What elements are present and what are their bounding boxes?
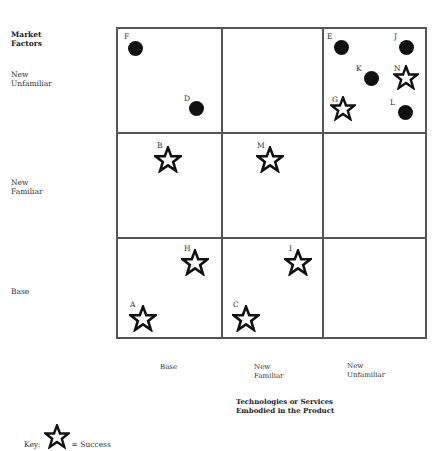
failure-dot-icon: [398, 105, 413, 120]
grid-line: [221, 27, 223, 338]
grid-line: [116, 337, 427, 339]
marker-label-k: K: [356, 65, 362, 73]
row-axis-title-line-2: Factors: [11, 39, 42, 48]
row-label-new-unfamiliar: New Unfamiliar: [11, 70, 52, 88]
success-star-icon: [154, 146, 182, 173]
col-axis-title-line-2: Embodied in the Product: [236, 407, 334, 416]
grid-line: [116, 27, 426, 29]
col-label-new-familiar: New Familiar: [254, 363, 283, 380]
row-label-line: Unfamiliar: [11, 79, 52, 88]
matrix-grid: [116, 27, 426, 338]
row-label-base: Base: [11, 287, 29, 296]
key-prefix: Key:: [24, 440, 41, 449]
col-label-line: New: [347, 362, 385, 371]
failure-dot-icon: [364, 71, 379, 86]
grid-line: [116, 237, 426, 239]
col-label-base: Base: [160, 363, 177, 372]
success-star-icon: [232, 305, 260, 332]
row-label-line: New: [11, 70, 52, 79]
key-text: = Success: [72, 440, 111, 449]
col-label-line: Unfamiliar: [347, 371, 385, 380]
failure-dot-icon: [334, 40, 349, 55]
col-label-line: Base: [160, 363, 177, 372]
success-star-icon: [129, 305, 157, 332]
col-label-line: Familiar: [254, 372, 283, 381]
star-outline-icon: [44, 424, 70, 451]
col-axis-title: Technologies or Services Embodied in the…: [236, 398, 334, 415]
row-axis-title-line-1: Market: [11, 30, 42, 39]
marker-label-d: D: [184, 95, 190, 103]
success-star-icon: [256, 146, 284, 173]
row-label-line: Base: [11, 287, 29, 296]
row-label-line: Familiar: [11, 187, 43, 196]
marker-label-e: E: [327, 33, 332, 41]
failure-dot-icon: [189, 101, 204, 116]
row-axis-title: Market Factors: [11, 30, 42, 48]
success-star-icon: [330, 96, 356, 121]
legend-key: Key: = Success: [24, 424, 111, 449]
col-label-new-unfamiliar: New Unfamiliar: [347, 362, 385, 379]
success-star-icon: [284, 249, 312, 276]
failure-dot-icon: [399, 40, 414, 55]
row-label-new-familiar: New Familiar: [11, 178, 43, 196]
marker-label-l: L: [390, 99, 395, 107]
grid-line: [425, 27, 427, 338]
col-label-line: New: [254, 363, 283, 372]
marker-label-j: J: [394, 33, 397, 41]
success-star-icon: [393, 65, 419, 90]
grid-line: [116, 132, 426, 134]
success-star-icon: [181, 249, 209, 276]
failure-dot-icon: [128, 41, 143, 56]
grid-line: [322, 27, 324, 338]
grid-line: [116, 27, 118, 338]
marker-label-f: F: [124, 33, 129, 41]
row-label-line: New: [11, 178, 43, 187]
